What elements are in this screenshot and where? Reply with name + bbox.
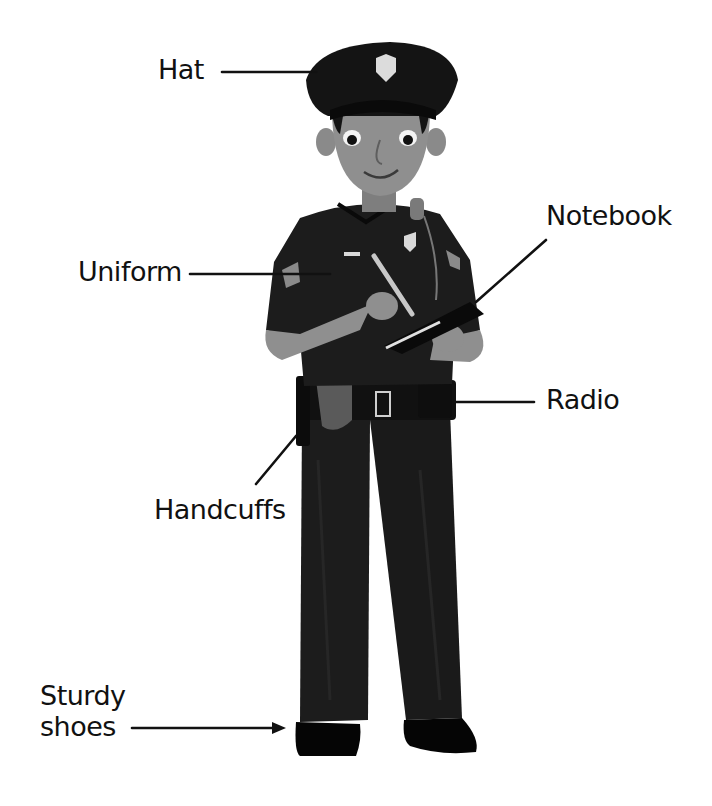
handcuffs-leader-line — [256, 436, 296, 484]
label-hat: Hat — [158, 54, 204, 85]
police-hat — [306, 42, 458, 120]
notebook-leader-line — [476, 240, 546, 302]
label-handcuffs: Handcuffs — [154, 494, 286, 525]
shoes — [296, 718, 477, 756]
diagram-canvas: Hat Uniform Notebook Radio Handcuffs Stu… — [0, 0, 712, 806]
label-sturdy-shoes: Sturdy shoes — [40, 680, 150, 742]
arrow-head-icon — [272, 722, 286, 734]
trousers — [300, 410, 462, 722]
label-radio: Radio — [546, 384, 619, 415]
label-uniform: Uniform — [78, 256, 182, 287]
label-notebook: Notebook — [546, 200, 672, 231]
